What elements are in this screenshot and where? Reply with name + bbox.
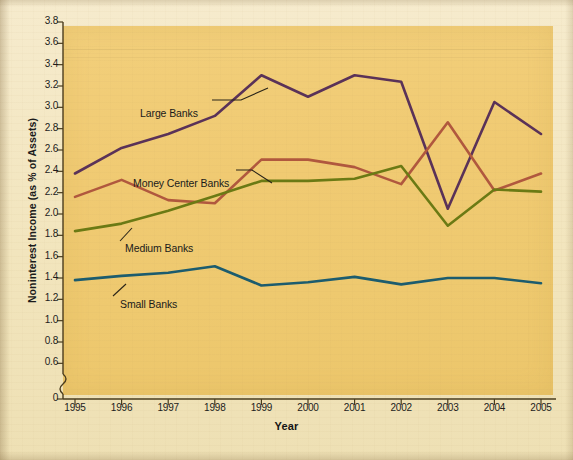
series-label-large-banks: Large Banks (140, 107, 198, 119)
series-line-money-center-banks (75, 122, 541, 203)
axes (57, 22, 556, 405)
label-leader-lines (113, 88, 272, 296)
series-line-small-banks (75, 266, 541, 285)
figure-canvas: 00.60.81.01.21.41.61.82.02.22.42.62.83.0… (0, 0, 573, 460)
line-chart (0, 0, 573, 460)
series-label-medium-banks: Medium Banks (125, 242, 193, 254)
y-tick-label: 3.8 (18, 15, 58, 26)
x-tick-label: 2005 (511, 402, 571, 413)
x-axis-tick-labels: 1995199619971998199920002001200220032004… (0, 402, 573, 418)
series-label-money-center-banks: Money Center Banks (133, 177, 229, 189)
series-line-medium-banks (75, 166, 541, 231)
leader-medium-banks (120, 228, 132, 241)
leader-small-banks (113, 284, 126, 296)
series-label-small-banks: Small Banks (120, 298, 177, 310)
y-axis-title: Noninterest Income (as % of Assets) (21, 26, 43, 395)
x-axis-title: Year (0, 420, 573, 432)
